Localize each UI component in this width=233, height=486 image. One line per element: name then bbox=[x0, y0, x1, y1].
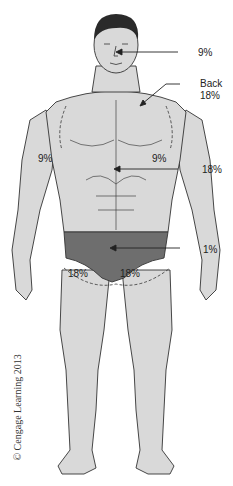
left-arm-percentage-label: 9% bbox=[38, 153, 52, 164]
right-arm-percentage-label: 9% bbox=[152, 153, 166, 164]
left-leg-percentage-label: 18% bbox=[68, 268, 88, 279]
human-body-figure bbox=[0, 0, 233, 486]
perineum-percentage-label: 1% bbox=[203, 244, 217, 255]
back-percentage-label: 18% bbox=[200, 90, 220, 101]
front-trunk-percentage-label: 18% bbox=[202, 164, 222, 175]
back-title-label: Back bbox=[200, 78, 222, 89]
head-percentage-label: 9% bbox=[198, 47, 212, 58]
right-leg-percentage-label: 18% bbox=[120, 268, 140, 279]
right-leg bbox=[122, 270, 174, 474]
left-leg bbox=[58, 270, 110, 474]
copyright-notice: © Cengage Learning 2013 bbox=[12, 331, 23, 461]
